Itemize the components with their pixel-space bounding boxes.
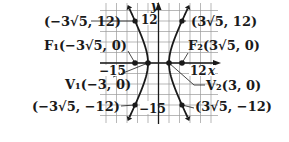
x-tick-neg15: −15 <box>99 64 126 78</box>
vertex-right-point <box>166 60 172 66</box>
point-bottom-right <box>179 102 184 107</box>
label-bottom-left-point: (−3√5, −12) <box>32 99 120 114</box>
label-focus-left: F₁(−3√5, 0) <box>44 38 127 53</box>
label-top-right-point: (3√5, 12) <box>191 14 257 29</box>
x-axis-label: x <box>207 64 216 78</box>
label-focus-right: F₂(3√5, 0) <box>188 38 260 53</box>
hyperbola-diagram: 12 −15 −15 12 x y (−3√5, 12) (3√5, 12) F… <box>0 0 289 142</box>
label-top-left-point: (−3√5, 12) <box>44 14 121 29</box>
label-vertex-right: V₂(3, 0) <box>205 78 261 93</box>
point-bottom-left <box>132 102 137 107</box>
y-tick-12: 12 <box>141 13 158 27</box>
vertex-left-point <box>145 60 151 66</box>
y-axis-label: y <box>150 0 159 13</box>
label-bottom-right-point: (3√5, −12) <box>195 99 272 114</box>
x-tick-12: 12 <box>190 64 207 78</box>
label-vertex-left: V₁(−3, 0) <box>64 77 131 92</box>
point-top-right <box>179 18 184 23</box>
point-top-left <box>132 18 137 23</box>
focus-left-point <box>132 60 138 66</box>
focus-right-point <box>179 60 185 66</box>
y-tick-neg15: −15 <box>139 102 166 116</box>
